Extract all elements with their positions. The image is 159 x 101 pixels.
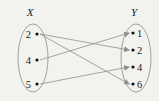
domain-elements: 245	[26, 29, 39, 90]
mapping-diagram: X Y 245 1246	[0, 0, 159, 101]
domain-set-label: X	[26, 6, 35, 18]
mapping-arrow	[40, 33, 129, 60]
mapping-arrow	[40, 34, 129, 50]
codomain-set-label: Y	[131, 6, 139, 18]
domain-element: 5	[26, 79, 39, 90]
codomain-point	[131, 48, 134, 51]
domain-element: 2	[26, 29, 39, 40]
codomain-element-label: 6	[137, 79, 142, 90]
domain-element-label: 4	[26, 55, 32, 66]
mapping-arrow	[40, 67, 129, 84]
domain-element: 4	[26, 55, 39, 66]
codomain-element-label: 2	[137, 45, 142, 56]
mapping-arrow	[40, 34, 129, 84]
codomain-element: 4	[131, 62, 143, 73]
codomain-element-label: 4	[137, 62, 143, 73]
domain-element-label: 2	[26, 29, 31, 40]
mapping-arrows	[40, 33, 129, 84]
domain-point	[35, 82, 38, 85]
codomain-element: 2	[131, 45, 142, 56]
codomain-element: 1	[131, 28, 142, 39]
domain-set-ellipse	[18, 24, 48, 92]
codomain-elements: 1246	[131, 28, 143, 90]
codomain-point	[131, 65, 134, 68]
codomain-element-label: 1	[137, 28, 142, 39]
domain-element-label: 5	[26, 79, 31, 90]
codomain-point	[131, 82, 134, 85]
domain-point	[35, 58, 38, 61]
codomain-point	[131, 31, 134, 34]
domain-point	[35, 32, 38, 35]
codomain-element: 6	[131, 79, 142, 90]
